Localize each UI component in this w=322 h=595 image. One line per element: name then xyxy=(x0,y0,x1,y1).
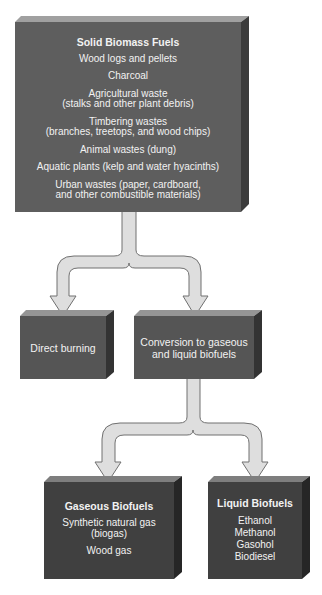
liquid-biofuels-item: Gasohol xyxy=(236,539,273,551)
solid-biomass-item: Aquatic plants (kelp and water hyacinths… xyxy=(37,162,219,173)
liquid-biofuels-item: Ethanol xyxy=(238,515,272,527)
solid-biomass-item: Charcoal xyxy=(108,71,148,82)
solid-biomass-item: Wood logs and pellets xyxy=(79,54,177,65)
direct-burning-label: Direct burning xyxy=(30,342,95,354)
liquid-biofuels-box: Liquid Biofuels Ethanol Methanol Gasohol… xyxy=(208,476,310,579)
gaseous-biofuels-item: Synthetic natural gas (biogas) xyxy=(62,518,155,539)
solid-biomass-item: Agricultural waste (stalks and other pla… xyxy=(62,89,194,110)
solid-biomass-item: Timbering wastes (branches, treetops, an… xyxy=(46,117,211,138)
gaseous-biofuels-title: Gaseous Biofuels xyxy=(65,500,154,512)
solid-biomass-box: Solid Biomass Fuels Wood logs and pellet… xyxy=(15,16,249,212)
liquid-biofuels-item: Biodiesel xyxy=(235,551,276,563)
conversion-label: Conversion to gaseous and liquid biofuel… xyxy=(140,336,247,360)
biomass-flow-diagram: Solid Biomass Fuels Wood logs and pellet… xyxy=(0,0,322,595)
solid-biomass-item: Animal wastes (dung) xyxy=(80,145,176,156)
solid-biomass-item: Urban wastes (paper, cardboard, and othe… xyxy=(55,180,201,201)
direct-burning-box: Direct burning xyxy=(20,310,114,379)
solid-biomass-title: Solid Biomass Fuels xyxy=(77,36,180,48)
gaseous-biofuels-box: Gaseous Biofuels Synthetic natural gas (… xyxy=(44,476,182,579)
liquid-biofuels-title: Liquid Biofuels xyxy=(217,497,293,509)
liquid-biofuels-item: Methanol xyxy=(234,527,275,539)
split-arrow-bottom-icon xyxy=(95,378,268,482)
gaseous-biofuels-item: Wood gas xyxy=(87,546,132,557)
split-arrow-top-icon xyxy=(50,211,208,316)
conversion-box: Conversion to gaseous and liquid biofuel… xyxy=(134,310,262,379)
